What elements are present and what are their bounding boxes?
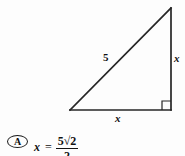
fraction-denominator: 2 bbox=[62, 149, 72, 156]
hypotenuse-line bbox=[70, 8, 171, 110]
right-angle-marker-icon bbox=[162, 101, 171, 110]
triangle-figure: 5 x x bbox=[0, 0, 185, 125]
hypotenuse-label: 5 bbox=[103, 52, 109, 63]
choice-bullet-letter: A bbox=[14, 137, 21, 147]
math-problem-screenshot: 5 x x A x = 5√2 2 bbox=[0, 0, 185, 156]
fraction-numerator: 5√2 bbox=[56, 135, 79, 148]
answer-fraction: 5√2 2 bbox=[56, 135, 79, 156]
answer-choice-a[interactable]: A x = 5√2 2 bbox=[0, 130, 185, 156]
horizontal-leg-label: x bbox=[115, 113, 121, 124]
triangle-svg bbox=[0, 0, 185, 125]
answer-expression: x = 5√2 2 bbox=[34, 134, 78, 156]
answer-equals-sign: = bbox=[45, 140, 52, 155]
answer-variable: x bbox=[34, 140, 40, 155]
choice-bullet-a[interactable]: A bbox=[7, 135, 28, 148]
vertical-leg-label: x bbox=[174, 53, 180, 64]
